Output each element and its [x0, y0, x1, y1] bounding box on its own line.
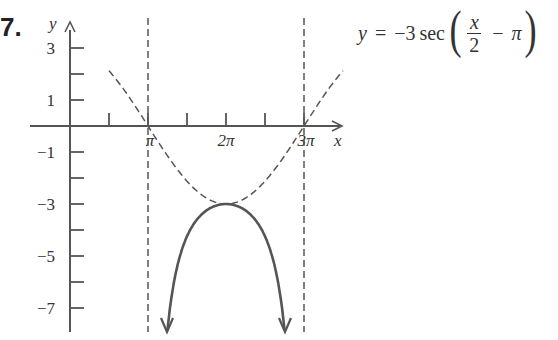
x-ticks	[109, 113, 304, 126]
denominator: 2	[469, 34, 479, 56]
close-paren: )	[524, 4, 536, 56]
y-tick-label-neg5: −5	[37, 247, 55, 266]
equation: y = −3 sec ( x 2 − π )	[358, 10, 539, 56]
y-ticks	[70, 48, 84, 308]
equation-equals: =	[375, 22, 386, 45]
equation-function: sec	[419, 22, 445, 45]
y-tick-label-3: 3	[47, 39, 56, 58]
y-tick-label-neg7: −7	[37, 299, 56, 318]
x-tick-label-2pi: 2π	[217, 131, 235, 150]
equation-minus: −	[492, 22, 503, 45]
y-tick-label-neg3: −3	[37, 195, 55, 214]
equation-shift: π	[512, 22, 522, 45]
equation-lhs: y	[358, 22, 367, 45]
x-axis-label: x	[333, 131, 342, 150]
fraction: x 2	[467, 11, 481, 56]
equation-coefficient: −3	[394, 22, 415, 45]
y-tick-label-1: 1	[47, 91, 56, 110]
y-axis-label: y	[47, 14, 57, 33]
numerator: x	[470, 11, 479, 33]
secant-branch-curve	[168, 204, 285, 330]
open-paren: (	[450, 4, 462, 56]
y-tick-label-neg1: −1	[37, 143, 55, 162]
